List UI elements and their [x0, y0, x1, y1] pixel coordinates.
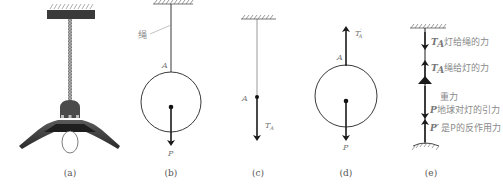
- label-p: P地球对灯的引力: [429, 104, 500, 115]
- caption-a: (a): [64, 168, 76, 178]
- point-a-label: A: [336, 53, 343, 62]
- force-ta-label: TA: [265, 121, 274, 131]
- panel-d: T′A A P (d): [315, 27, 377, 178]
- label-ta: TA灯给绳的力: [431, 36, 489, 49]
- point-a-label: A: [161, 61, 168, 70]
- caption-c: (c): [252, 168, 264, 178]
- light-bulb: [62, 131, 78, 153]
- panel-a: (a): [19, 4, 120, 178]
- caption-b: (b): [165, 168, 178, 178]
- physics-diagram: (a) 绳 A P (b) A: [0, 0, 503, 190]
- caption-e: (e): [425, 168, 437, 178]
- lamp-chain: [68, 19, 72, 101]
- panel-c: A TA (c): [241, 15, 276, 178]
- panel-b: 绳 A P (b): [138, 0, 201, 178]
- label-p-prime: P′是P的反作用力: [429, 122, 501, 133]
- label-gravity: 重力: [440, 91, 458, 102]
- label-ta-prime: TA绳给灯的力: [431, 62, 489, 75]
- ceiling-mount-block: [47, 10, 95, 19]
- lamp-window: [69, 115, 72, 118]
- point-a-label: A: [241, 94, 248, 103]
- ceiling-hatch: [153, 0, 193, 4]
- earth-ground: [412, 143, 439, 150]
- force-p-label: P: [167, 149, 174, 158]
- force-ta-prime-label: T′A: [355, 27, 363, 39]
- lamp-triangle: [418, 76, 432, 84]
- lamp-window: [61, 115, 64, 118]
- ceiling-hatch: [410, 24, 446, 28]
- ceiling-hatch: [50, 4, 93, 9]
- force-p-label: P: [342, 143, 349, 152]
- panel-e: TA灯给绳的力 TA绳给灯的力 重力 P地球对灯的引力 P′是P的反作用力 (e…: [410, 24, 501, 178]
- ceiling-hatch: [241, 15, 276, 19]
- caption-d: (d): [340, 168, 353, 178]
- rope-label: 绳: [138, 29, 147, 40]
- rope-label-leader: [150, 25, 171, 34]
- lamp-window: [76, 115, 79, 118]
